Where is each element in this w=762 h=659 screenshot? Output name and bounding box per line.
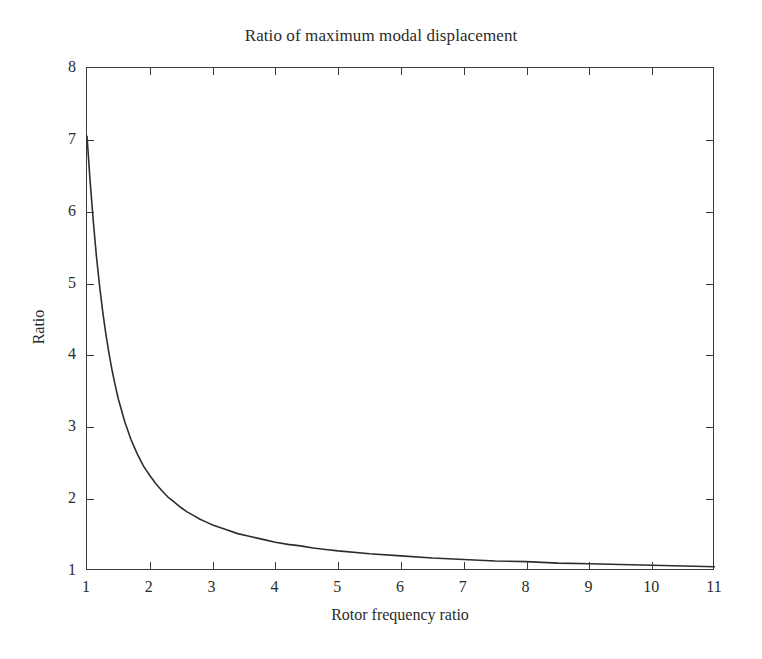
x-tick-top (652, 68, 653, 75)
x-tick-bottom (275, 562, 276, 569)
y-tick-label: 7 (56, 130, 76, 148)
x-tick-top (150, 68, 151, 75)
x-tick-bottom (464, 562, 465, 569)
y-tick-label: 1 (56, 561, 76, 579)
x-tick-bottom (150, 562, 151, 569)
x-tick-top (275, 68, 276, 75)
y-tick-left (87, 140, 94, 141)
y-tick-left (87, 355, 94, 356)
x-tick-label: 11 (706, 578, 721, 596)
x-tick-bottom (213, 562, 214, 569)
x-tick-label: 8 (522, 578, 530, 596)
x-tick-top (464, 68, 465, 75)
chart-title: Ratio of maximum modal displacement (0, 26, 762, 46)
y-axis-label: Ratio (30, 282, 48, 372)
y-tick-right (706, 355, 713, 356)
x-axis-label: Rotor frequency ratio (86, 606, 714, 624)
x-tick-top (589, 68, 590, 75)
x-tick-bottom (527, 562, 528, 569)
x-tick-bottom (338, 562, 339, 569)
y-tick-right (706, 499, 713, 500)
x-tick-label: 4 (270, 578, 278, 596)
x-tick-bottom (401, 562, 402, 569)
y-tick-label: 2 (56, 489, 76, 507)
x-tick-label: 3 (208, 578, 216, 596)
x-tick-label: 2 (145, 578, 153, 596)
y-tick-left (87, 427, 94, 428)
y-tick-left (87, 212, 94, 213)
x-tick-top (527, 68, 528, 75)
data-series-line (87, 136, 715, 566)
y-tick-right (706, 427, 713, 428)
y-tick-label: 8 (56, 58, 76, 76)
x-tick-label: 6 (396, 578, 404, 596)
chart-figure: Ratio of maximum modal displacement 1234… (0, 0, 762, 659)
x-tick-label: 5 (333, 578, 341, 596)
y-tick-right (706, 140, 713, 141)
y-tick-right (706, 284, 713, 285)
x-tick-top (338, 68, 339, 75)
y-tick-label: 3 (56, 417, 76, 435)
y-tick-left (87, 284, 94, 285)
plot-area (86, 67, 714, 570)
plot-svg (87, 68, 715, 571)
x-tick-top (213, 68, 214, 75)
y-tick-left (87, 499, 94, 500)
x-tick-top (401, 68, 402, 75)
x-tick-bottom (652, 562, 653, 569)
y-tick-label: 6 (56, 202, 76, 220)
y-tick-label: 5 (56, 274, 76, 292)
y-tick-right (706, 212, 713, 213)
y-tick-label: 4 (56, 345, 76, 363)
x-tick-bottom (589, 562, 590, 569)
x-tick-label: 9 (584, 578, 592, 596)
x-tick-label: 7 (459, 578, 467, 596)
x-tick-label: 1 (82, 578, 90, 596)
x-tick-label: 10 (643, 578, 659, 596)
